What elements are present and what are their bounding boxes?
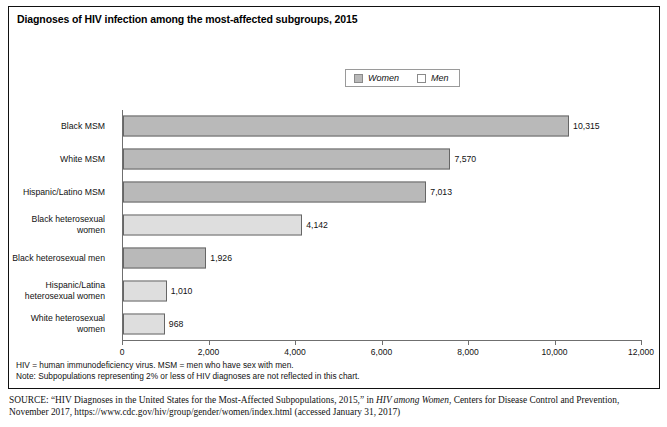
bar-value-label: 10,315 — [573, 121, 600, 131]
x-axis-tick — [555, 340, 556, 345]
bar-women[interactable] — [123, 214, 302, 235]
category-label: Black heterosexual men — [12, 252, 105, 263]
category-label: Hispanic/Latina heterosexual women — [25, 280, 105, 302]
category-label: White heterosexual women — [9, 313, 105, 335]
x-axis-tick — [295, 340, 296, 345]
bar-women[interactable] — [123, 313, 165, 334]
bar-row: White heterosexual women968 — [9, 307, 661, 340]
legend-label-men: Men — [431, 73, 449, 83]
bar-value-label: 7,013 — [430, 187, 452, 197]
source-citation: SOURCE: “HIV Diagnoses in the United Sta… — [9, 394, 659, 419]
x-axis-tick — [468, 340, 469, 345]
bar-women[interactable] — [123, 280, 167, 301]
bar-value-label: 4,142 — [306, 220, 328, 230]
bar-value-label: 1,926 — [210, 253, 232, 263]
bar-men[interactable] — [123, 116, 569, 137]
bar-men[interactable] — [123, 182, 426, 203]
bar-men[interactable] — [123, 247, 206, 268]
bar-row: Black MSM10,315 — [9, 110, 661, 143]
source-part1: “HIV Diagnoses in the United States for … — [49, 395, 376, 405]
x-axis-tick-label: 0 — [120, 347, 125, 357]
men-swatch-icon — [417, 74, 426, 83]
bar-value-label: 7,570 — [454, 154, 476, 164]
bar-row: Hispanic/Latina heterosexual women1,010 — [9, 274, 661, 307]
source-publication-title: HIV among Women — [376, 395, 449, 405]
chart-title: Diagnoses of HIV infection among the mos… — [17, 13, 358, 25]
x-axis-tick-label: 12,000 — [628, 347, 654, 357]
x-axis-tick — [641, 340, 642, 345]
x-axis-tick — [382, 340, 383, 345]
bar-row: Black heterosexual men1,926 — [9, 241, 661, 274]
x-axis-tick-label: 6,000 — [371, 347, 392, 357]
bar-men[interactable] — [123, 149, 450, 170]
note-line-subpopulations: Note: Subpopulations representing 2% or … — [16, 371, 360, 382]
source-label: SOURCE: — [9, 395, 49, 405]
bar-value-label: 968 — [169, 319, 184, 329]
bar-row: White MSM7,570 — [9, 143, 661, 176]
category-label: Hispanic/Latino MSM — [23, 187, 105, 198]
plot-area: 02,0004,0006,0008,00010,00012,000 Black … — [9, 110, 661, 342]
legend-item-men: Men — [417, 73, 449, 83]
x-axis-tick-label: 2,000 — [198, 347, 219, 357]
category-label: Black heterosexual women — [9, 214, 105, 236]
legend-label-women: Women — [368, 73, 399, 83]
figure-frame: Diagnoses of HIV infection among the mos… — [8, 6, 660, 389]
bar-value-label: 1,010 — [171, 286, 193, 296]
chart-legend: Women Men — [345, 69, 460, 87]
x-axis-tick — [209, 340, 210, 345]
bar-row: Hispanic/Latino MSM7,013 — [9, 176, 661, 209]
women-swatch-icon — [354, 74, 363, 83]
legend-item-women: Women — [354, 73, 399, 83]
x-axis-tick-label: 10,000 — [542, 347, 568, 357]
chart-notes: HIV = human immunodeficiency virus. MSM … — [16, 360, 360, 383]
category-label: Black MSM — [61, 121, 105, 132]
x-axis-tick-label: 4,000 — [284, 347, 305, 357]
category-label: White MSM — [60, 154, 105, 165]
bar-row: Black heterosexual women4,142 — [9, 209, 661, 242]
x-axis-tick — [122, 340, 123, 345]
note-line-abbreviations: HIV = human immunodeficiency virus. MSM … — [16, 360, 360, 371]
x-axis-tick-label: 8,000 — [457, 347, 478, 357]
